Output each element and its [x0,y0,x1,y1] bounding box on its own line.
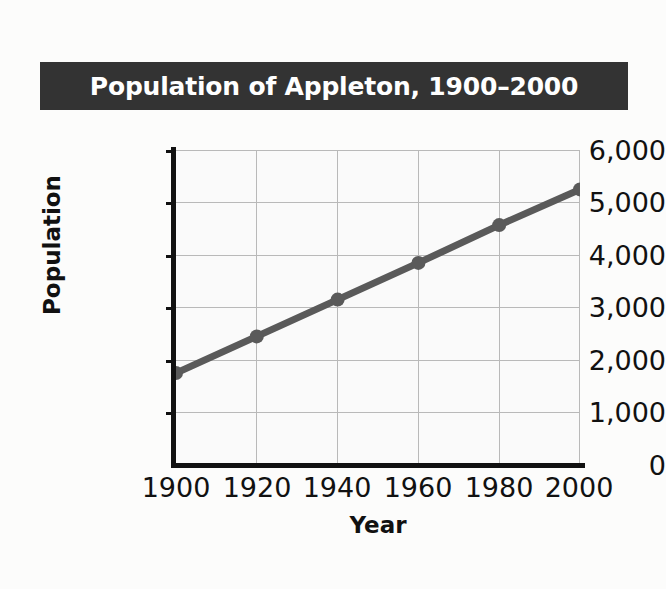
y-tick-mark-5000 [166,202,172,205]
y-tick-label-3000: 3,000 [570,294,666,321]
y-tick-label-5000: 5,000 [570,189,666,216]
y-tick-mark-3000 [166,307,172,310]
y-tick-label-1000: 1,000 [570,399,666,426]
x-tick-label-1900: 1900 [131,474,221,501]
x-tick-label-1940: 1940 [292,474,382,501]
y-tick-mark-2000 [166,360,172,363]
data-point-1960 [411,256,425,270]
chart-figure: Population of Appleton, 1900–2000 6,000 … [0,0,666,589]
chart-title-banner: Population of Appleton, 1900–2000 [40,62,628,110]
x-tick-label-1960: 1960 [373,474,463,501]
x-tick-label-1920: 1920 [212,474,302,501]
data-series-population [176,150,580,465]
x-axis-title: Year [176,512,580,538]
data-point-1920 [250,329,264,343]
x-tick-label-1980: 1980 [454,474,544,501]
y-tick-mark-6000 [166,150,172,153]
y-tick-label-4000: 4,000 [570,242,666,269]
y-tick-label-6000: 6,000 [570,137,666,164]
y-tick-label-2000: 2,000 [570,347,666,374]
chart-title: Population of Appleton, 1900–2000 [90,72,578,101]
x-tick-label-2000: 2000 [534,474,624,501]
data-point-1940 [331,293,345,307]
data-point-1980 [492,218,506,232]
y-axis-title: Population [39,155,65,335]
y-tick-mark-1000 [166,412,172,415]
y-tick-mark-4000 [166,255,172,258]
series-line [176,189,580,373]
x-axis-line [171,463,585,468]
